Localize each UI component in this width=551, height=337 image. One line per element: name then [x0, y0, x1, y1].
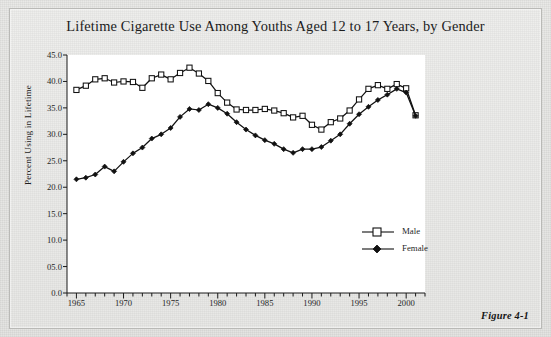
y-tick-label: 25.0 [47, 156, 62, 166]
x-tick-label: 1985 [256, 298, 273, 308]
legend-item-male: Male [360, 225, 470, 242]
line-chart-svg [0, 0, 551, 337]
y-tick-label: 35.0 [47, 103, 62, 113]
y-tick-label: 05.0 [47, 262, 62, 272]
legend-label-female: Female [402, 243, 428, 253]
y-tick-label: 15.0 [47, 209, 62, 219]
y-tick-label: 30.0 [47, 129, 62, 139]
figure-frame: Lifetime Cigarette Use Among Youths Aged… [0, 0, 551, 337]
x-tick-label: 1980 [209, 298, 226, 308]
x-tick-label: 1965 [68, 298, 85, 308]
figure-caption: Figure 4-1 [481, 310, 529, 321]
y-axis-tick-labels: 0.005.010.015.020.025.030.035.040.045.0 [30, 0, 62, 337]
x-tick-label: 1990 [303, 298, 320, 308]
x-tick-label: 2000 [398, 298, 415, 308]
x-axis-tick-labels: 19651970197519801985199019952000 [0, 298, 551, 314]
x-tick-label: 1970 [115, 298, 132, 308]
legend-label-male: Male [402, 226, 420, 236]
chart-legend: Male Female [360, 225, 470, 261]
legend-marker-female-icon [360, 242, 398, 256]
legend-item-female: Female [360, 242, 470, 259]
legend-marker-male-icon [360, 225, 398, 239]
y-tick-label: 40.0 [47, 76, 62, 86]
y-tick-label: 20.0 [47, 182, 62, 192]
y-tick-label: 0.0 [51, 288, 62, 298]
y-tick-label: 10.0 [47, 235, 62, 245]
y-tick-label: 45.0 [47, 50, 62, 60]
x-tick-label: 1975 [162, 298, 179, 308]
x-tick-label: 1995 [350, 298, 367, 308]
chart-plot-area: Percent Using in Lifetime 0.005.010.015.… [0, 0, 551, 337]
